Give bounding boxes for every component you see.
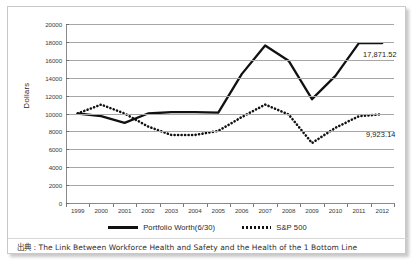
x-tick-label: 2006 (235, 207, 248, 214)
dotted-line-icon (241, 226, 271, 229)
gridline (66, 24, 394, 25)
x-tick-mark (324, 204, 325, 207)
legend-label-portfolio: Portfolio Worth(6/30) (143, 223, 215, 232)
y-tick-mark (66, 149, 69, 150)
chart-legend: Portfolio Worth(6/30) S&P 500 (8, 219, 407, 235)
gridline (66, 42, 394, 43)
x-tick-mark (300, 204, 301, 207)
x-tick-mark (253, 204, 254, 207)
x-tick-label: 2011 (352, 207, 365, 214)
x-tick-mark (277, 204, 278, 207)
y-tick-mark (66, 96, 69, 97)
gridline (66, 78, 394, 79)
y-tick-mark (66, 78, 69, 79)
footer-divider (8, 238, 407, 239)
gridline (66, 167, 394, 168)
x-tick-label: 2005 (212, 207, 225, 214)
y-tick-label: 18000 (45, 38, 62, 45)
y-tick-mark (66, 167, 69, 168)
y-tick-label: 4000 (49, 164, 62, 171)
x-tick-mark (89, 204, 90, 207)
x-tick-mark (113, 204, 114, 207)
x-tick-label: 2003 (165, 207, 178, 214)
x-tick-mark (230, 204, 231, 207)
gridline (66, 185, 394, 186)
gridline (66, 60, 394, 61)
plot-region (66, 24, 394, 203)
series-line-portfolio (78, 43, 383, 123)
x-tick-mark (347, 204, 348, 207)
y-tick-label: 0 (59, 200, 62, 207)
y-tick-label: 8000 (49, 128, 62, 135)
x-axis-ticks: 1999200020012002200320042005200620072008… (66, 204, 394, 216)
x-tick-mark (207, 204, 208, 207)
x-tick-label: 2000 (94, 207, 107, 214)
portfolio-value-label: 17,871.52 (363, 50, 397, 59)
x-tick-label: 1999 (71, 207, 84, 214)
screenshot-root: Dollars 02000400060008000100001200014000… (0, 0, 416, 262)
y-tick-mark (66, 185, 69, 186)
y-axis-ticks: 0200040006000800010000120001400016000180… (26, 24, 62, 203)
x-tick-label: 2009 (305, 207, 318, 214)
x-tick-mark (371, 204, 372, 207)
y-tick-label: 16000 (45, 56, 62, 63)
series-line-sp500 (78, 105, 383, 143)
x-tick-mark (394, 204, 395, 207)
gridline (66, 149, 394, 150)
legend-item-portfolio: Portfolio Worth(6/30) (108, 223, 215, 232)
y-tick-label: 6000 (49, 146, 62, 153)
x-tick-mark (136, 204, 137, 207)
x-tick-label: 2001 (118, 207, 131, 214)
x-tick-label: 2002 (141, 207, 154, 214)
y-tick-mark (66, 42, 69, 43)
y-tick-mark (66, 203, 69, 204)
x-tick-mark (66, 204, 67, 207)
y-tick-label: 14000 (45, 74, 62, 81)
source-attribution: 出典 : The Link Between Workforce Health a… (17, 241, 402, 252)
chart-card: Dollars 02000400060008000100001200014000… (7, 6, 406, 254)
x-tick-mark (160, 204, 161, 207)
x-tick-label: 2008 (282, 207, 295, 214)
x-tick-label: 2010 (329, 207, 342, 214)
y-tick-mark (66, 114, 69, 115)
x-tick-label: 2012 (376, 207, 389, 214)
y-tick-label: 20000 (45, 21, 62, 28)
legend-item-sp500: S&P 500 (241, 223, 307, 232)
x-tick-label: 2004 (188, 207, 201, 214)
solid-line-icon (108, 226, 138, 229)
gridline (66, 131, 394, 132)
y-tick-label: 12000 (45, 92, 62, 99)
y-tick-mark (66, 24, 69, 25)
y-tick-mark (66, 60, 69, 61)
x-tick-label: 2007 (258, 207, 271, 214)
y-tick-label: 2000 (49, 182, 62, 189)
legend-label-sp500: S&P 500 (276, 223, 307, 232)
gridline (66, 96, 394, 97)
sp500-value-label: 9,923.14 (366, 130, 396, 139)
x-tick-mark (183, 204, 184, 207)
gridline (66, 114, 394, 115)
y-tick-label: 10000 (45, 110, 62, 117)
y-tick-mark (66, 131, 69, 132)
chart-area: Dollars 02000400060008000100001200014000… (8, 7, 407, 217)
